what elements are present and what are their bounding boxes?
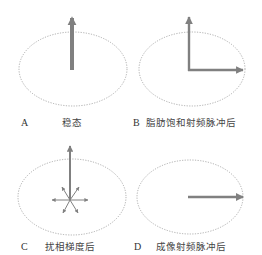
panel-b-letter: B bbox=[133, 117, 140, 129]
panel-a-caption: 稳态 bbox=[62, 117, 82, 129]
dephased-arrow-lower-left bbox=[63, 200, 70, 213]
panel-c-letter: C bbox=[21, 241, 28, 253]
panel-d bbox=[137, 160, 243, 234]
panel-a-letter: A bbox=[21, 117, 28, 129]
panel-b bbox=[139, 17, 245, 106]
dephased-arrow-upper-right bbox=[70, 187, 79, 200]
panel-b-caption: 脂肪饱和射频脉冲后 bbox=[146, 117, 236, 129]
panel-c bbox=[18, 146, 126, 235]
panel-d-caption: 成像射频脉冲后 bbox=[156, 241, 226, 253]
panel-a bbox=[19, 18, 127, 106]
dephased-arrow-lower-right bbox=[70, 200, 78, 213]
dephased-arrow-upper-left bbox=[62, 187, 70, 200]
panel-d-letter: D bbox=[134, 241, 141, 253]
panel-c-caption: 扰相梯度后 bbox=[45, 241, 95, 253]
